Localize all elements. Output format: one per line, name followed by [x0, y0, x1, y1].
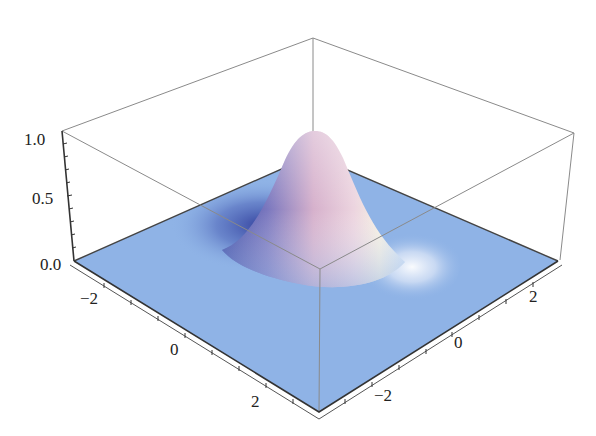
z-tick-label-0: 0.0 [40, 255, 61, 274]
left-axis-label-neg2: −2 [80, 289, 98, 308]
left-axis-label-2: 2 [251, 392, 260, 411]
z-tick-label-05: 0.5 [32, 189, 53, 208]
right-axis-label-neg2: −2 [374, 386, 392, 405]
right-axis-label-2: 2 [529, 287, 538, 306]
right-axis-label-0: 0 [454, 333, 463, 352]
z-axis [62, 131, 76, 261]
surface-plot: 1.0 0.5 0.0 −2 0 2 −2 0 2 [0, 0, 596, 436]
left-axis-label-0: 0 [170, 340, 179, 359]
z-tick-label-1: 1.0 [24, 130, 45, 149]
